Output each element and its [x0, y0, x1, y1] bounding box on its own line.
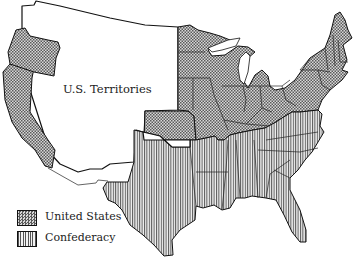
- legend-swatch-united-states: [17, 210, 37, 226]
- legend-label-confederacy: Confederacy: [45, 231, 115, 244]
- legend-label-united-states: United States: [45, 210, 121, 223]
- legend-swatch-confederacy: [17, 231, 37, 247]
- territory-label: U.S. Territories: [63, 82, 152, 96]
- northern-states: [178, 12, 352, 140]
